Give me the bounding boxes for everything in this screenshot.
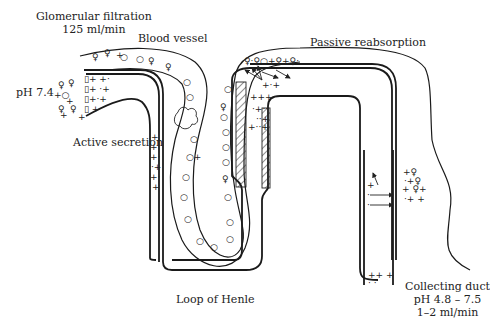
thick-ascending-wall-left <box>236 82 246 187</box>
svg-text:○: ○ <box>183 77 191 87</box>
svg-text:○: ○ <box>120 52 128 62</box>
svg-text:○: ○ <box>220 112 228 122</box>
svg-text:♀: ♀ <box>92 52 99 62</box>
svg-text:· ·: · · <box>368 278 377 288</box>
svg-text:+ ♀+: + ♀+ <box>402 184 427 194</box>
svg-text:+·+: +·+ <box>262 80 280 90</box>
passive-reabsorption-label: Passive reabsorption <box>310 36 426 49</box>
svg-text:▯+ ·+: ▯+ ·+ <box>84 84 110 94</box>
svg-text:·+··: ·+·· <box>252 104 268 114</box>
svg-text:○: ○ <box>226 217 234 227</box>
svg-text:○: ○ <box>226 234 234 244</box>
loop-of-henle-label: Loop of Henle <box>176 293 255 306</box>
svg-text:○+: ○+ <box>186 152 201 162</box>
svg-text:○: ○ <box>224 84 232 94</box>
svg-text:♀·♀○+♀+♀·: ♀·♀○+♀+♀· <box>244 56 299 66</box>
svg-text:♀: ♀ <box>104 48 111 58</box>
svg-text:+: + <box>152 182 160 192</box>
ph-blood-label: pH 7.4 <box>16 86 54 99</box>
svg-text:·+: ·+ <box>151 162 161 172</box>
svg-text:+: + <box>367 180 375 190</box>
svg-text:+··+: +··+ <box>248 122 269 132</box>
loop-of-henle <box>172 64 396 280</box>
svg-text:○: ○ <box>180 192 188 202</box>
svg-text:♀: ♀ <box>222 174 229 184</box>
active-secretion-label: Active secretion <box>73 136 163 149</box>
svg-text:○: ○ <box>136 54 144 64</box>
svg-text:♀: ♀ <box>68 78 75 88</box>
blood-vessel-label: Blood vessel <box>138 32 207 45</box>
svg-text:▯+ +·: ▯+ +· <box>84 74 110 84</box>
svg-text:♀: ♀ <box>165 62 172 72</box>
svg-text:○: ○ <box>222 157 230 167</box>
svg-text:♀: ♀ <box>58 80 65 90</box>
svg-text:○: ○ <box>224 192 232 202</box>
svg-text:▯+·+: ▯+·+ <box>84 94 107 104</box>
proximal-tubule <box>84 70 246 270</box>
svg-text:+·: +· <box>150 172 160 182</box>
svg-text:○: ○ <box>210 242 218 252</box>
svg-text:·: · <box>367 200 370 210</box>
svg-text:○: ○ <box>190 134 198 144</box>
svg-text:·+ +: ·+ + <box>404 194 425 204</box>
cell-cluster-icon <box>174 107 197 129</box>
svg-text:+: + <box>60 110 68 120</box>
svg-text:♀: ♀ <box>220 102 227 112</box>
svg-text:○: ○ <box>186 92 194 102</box>
svg-text:○: ○ <box>182 172 190 182</box>
svg-text:+·: +· <box>150 152 160 162</box>
svg-text:○: ○ <box>184 214 192 224</box>
collecting-duct-label: Collecting duct pH 4.8 – 7.5 1–2 ml/min <box>405 280 490 319</box>
collecting-duct <box>364 150 393 285</box>
svg-text:+++·: +++· <box>250 92 275 102</box>
svg-text:○: ○ <box>222 142 230 152</box>
svg-text:○: ○ <box>196 236 204 246</box>
svg-text:▯ +: ▯ + <box>84 104 99 114</box>
svg-text:○: ○ <box>222 127 230 137</box>
svg-text:♀: ♀ <box>70 104 77 114</box>
svg-text:·: · <box>367 190 370 200</box>
glomerular-filtration-label: Glomerular filtration 125 ml/min <box>36 10 152 36</box>
svg-text:♀: ♀ <box>148 56 155 66</box>
